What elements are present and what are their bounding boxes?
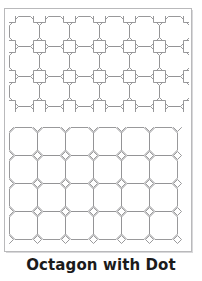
square-tile <box>94 41 106 53</box>
square-tile <box>64 101 76 113</box>
page-title: Octagon with Dot <box>0 256 202 274</box>
octagon-tile <box>94 212 122 240</box>
square-tile <box>124 16 136 23</box>
pattern-octagon-with-dot <box>9 127 189 245</box>
octagon-tile <box>10 128 38 156</box>
octagon-tile <box>10 184 38 212</box>
octagon-tile <box>66 128 94 156</box>
octagon-tile <box>122 156 150 184</box>
square-tile <box>184 71 190 83</box>
square-tile <box>124 41 136 53</box>
square-tile <box>184 101 190 113</box>
octagon-tile <box>150 128 178 156</box>
octagon-tile <box>38 184 66 212</box>
octagon-tile <box>38 212 66 240</box>
octagon-tile <box>10 156 38 184</box>
square-tile <box>124 101 136 113</box>
square-tile <box>64 71 76 83</box>
octagon-tile <box>94 184 122 212</box>
square-tile <box>34 16 46 23</box>
octagon-tile <box>122 212 150 240</box>
square-tile <box>34 101 46 113</box>
octagon-tile <box>66 212 94 240</box>
square-tile <box>34 41 46 53</box>
octagon-tile <box>122 184 150 212</box>
octagon-tile <box>38 156 66 184</box>
square-tile <box>154 101 166 113</box>
octagon-tile <box>150 212 178 240</box>
square-tile <box>9 41 16 53</box>
square-tile <box>184 16 190 23</box>
octagon-tile <box>94 128 122 156</box>
coloring-worksheet: Octagon with Dot <box>0 0 202 281</box>
octagon-tile <box>10 212 38 240</box>
square-tile <box>184 41 190 53</box>
pattern-octagon-with-square <box>9 16 189 112</box>
square-tile <box>9 16 16 23</box>
square-tile <box>64 16 76 23</box>
square-tile <box>154 41 166 53</box>
octagon-tile <box>150 184 178 212</box>
square-tile <box>9 101 16 113</box>
square-tile <box>94 101 106 113</box>
square-tile <box>154 16 166 23</box>
octagon-tile <box>150 156 178 184</box>
square-tile <box>9 71 16 83</box>
octagon-tile <box>66 156 94 184</box>
octagon-tile <box>38 128 66 156</box>
square-tile <box>94 16 106 23</box>
octagon-tile <box>94 156 122 184</box>
square-tile <box>154 71 166 83</box>
square-tile <box>124 71 136 83</box>
octagon-tile <box>66 184 94 212</box>
square-tile <box>34 71 46 83</box>
octagon-tile <box>122 128 150 156</box>
square-tile <box>64 41 76 53</box>
square-tile <box>94 71 106 83</box>
